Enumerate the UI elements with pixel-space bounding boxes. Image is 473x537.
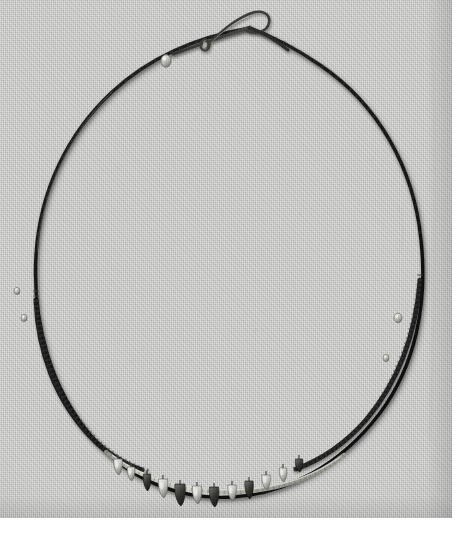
clasp-loop-inner (203, 42, 207, 48)
stray-bead (21, 314, 27, 321)
upper-hanging-bead (161, 55, 171, 67)
stray-bead (14, 287, 20, 294)
pendant-drop (209, 483, 219, 507)
necklace-cord (35, 28, 422, 497)
clasp (173, 12, 288, 54)
pendant-drop (175, 480, 186, 506)
necklace-artifact (0, 0, 452, 518)
cord-thick-lower-left (36, 300, 142, 470)
pendant-drop (279, 464, 287, 482)
paper-margin-bottom (0, 518, 473, 537)
cloth-crease (430, 36, 435, 440)
stray-bead (383, 354, 389, 361)
cord-path (35, 28, 422, 497)
cord-bead-grain-upper-right (250, 28, 421, 240)
screenshot-root: Monochrome archival photograph of an anc… (0, 0, 473, 537)
stray-bead (394, 313, 402, 323)
paper-margin-right (452, 0, 473, 537)
cord-sheen (37, 92, 112, 252)
cord-bead-grain-upper (37, 28, 250, 250)
photograph (0, 0, 452, 518)
cloth-specks (59, 117, 411, 471)
pendant-drop (158, 475, 168, 498)
pendant-strand-path (106, 452, 344, 492)
pendant-strand (106, 452, 344, 492)
